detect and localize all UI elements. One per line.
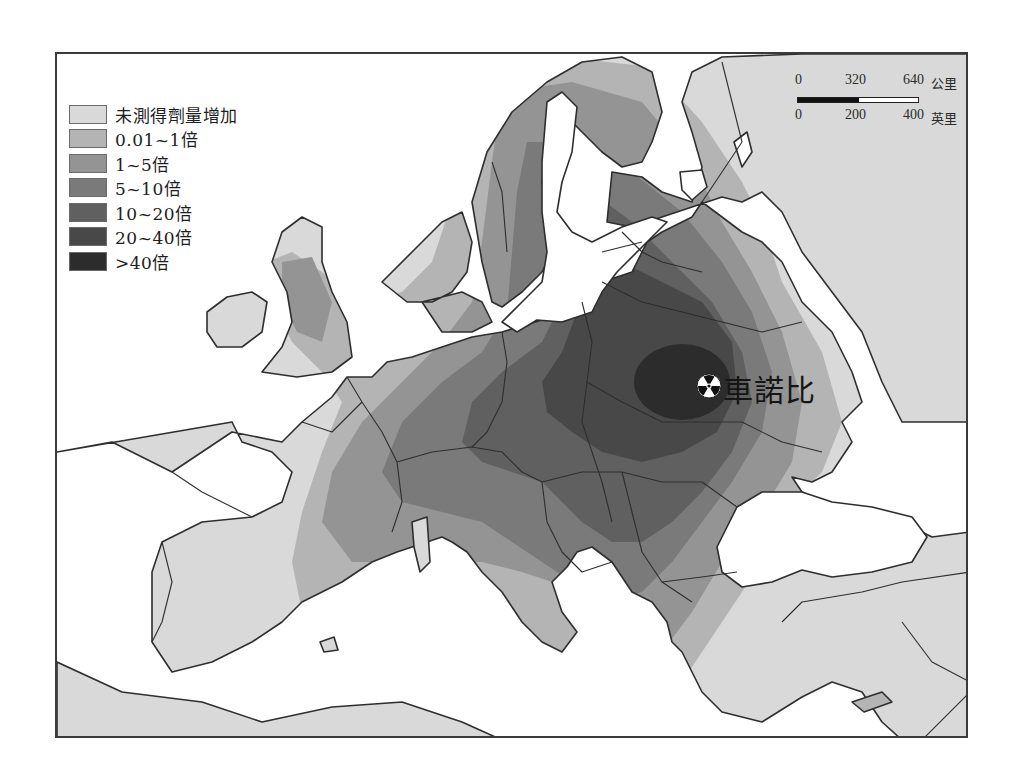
- legend-item: 20~40倍: [69, 225, 238, 250]
- chernobyl-label: 車諾比: [723, 366, 816, 410]
- legend-swatch: [69, 252, 107, 271]
- legend-swatch: [69, 178, 107, 197]
- scale-km-unit: 公里: [931, 73, 957, 92]
- legend-swatch: [69, 227, 107, 246]
- legend-swatch: [69, 105, 107, 124]
- scale-km-tick: 320: [845, 72, 866, 88]
- legend-swatch: [69, 203, 107, 222]
- legend-label: 20~40倍: [115, 224, 193, 249]
- legend-item: 1~5倍: [69, 151, 238, 176]
- legend-label: 5~10倍: [115, 175, 181, 200]
- legend-label: 0.01~1倍: [115, 126, 198, 151]
- legend-item: 10~20倍: [69, 200, 238, 225]
- legend-label: 未測得劑量增加: [115, 102, 238, 127]
- legend-label: >40倍: [115, 249, 170, 274]
- legend-swatch: [69, 154, 107, 173]
- scale-km-tick: 640: [903, 72, 924, 88]
- legend-item: 5~10倍: [69, 176, 238, 201]
- scale-mi-unit: 英里: [931, 108, 957, 127]
- scale-bar: 0 320 640 公里 0 200 400 英里: [795, 70, 967, 130]
- legend-item: >40倍: [69, 249, 238, 274]
- legend-item: 未測得劑量增加: [69, 102, 238, 127]
- legend: 未測得劑量增加 0.01~1倍 1~5倍 5~10倍 10~20倍 20~40倍…: [69, 102, 238, 274]
- scale-mi-tick: 400: [903, 107, 924, 123]
- scale-mi-tick: 0: [795, 107, 802, 123]
- scale-km-tick: 0: [795, 72, 802, 88]
- scale-bar-graphic: [797, 97, 919, 103]
- legend-item: 0.01~1倍: [69, 127, 238, 152]
- map-frame: 未測得劑量增加 0.01~1倍 1~5倍 5~10倍 10~20倍 20~40倍…: [55, 52, 968, 738]
- legend-label: 1~5倍: [115, 151, 170, 176]
- scale-mi-tick: 200: [845, 107, 866, 123]
- legend-swatch: [69, 129, 107, 148]
- radiation-icon: [696, 373, 722, 399]
- legend-label: 10~20倍: [115, 200, 193, 225]
